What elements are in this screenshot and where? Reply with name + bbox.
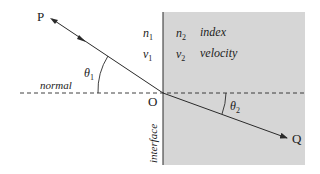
arrow-to-p-icon [50,18,58,24]
point-p-label: P [37,9,44,24]
v1-label: v1 [143,47,152,63]
theta1-label: θ1 [84,66,94,82]
index-label: index [200,25,227,39]
interface-label: interface [147,124,159,163]
refraction-diagram: P O Q θ1 θ2 normal interface n1 v1 n2 v2… [0,0,320,174]
normal-label: normal [40,79,72,91]
theta1-arc [98,56,108,93]
velocity-label: velocity [200,46,238,60]
n1-label: n1 [143,26,153,42]
point-o-label: O [148,94,157,109]
point-q-label: Q [292,131,302,146]
